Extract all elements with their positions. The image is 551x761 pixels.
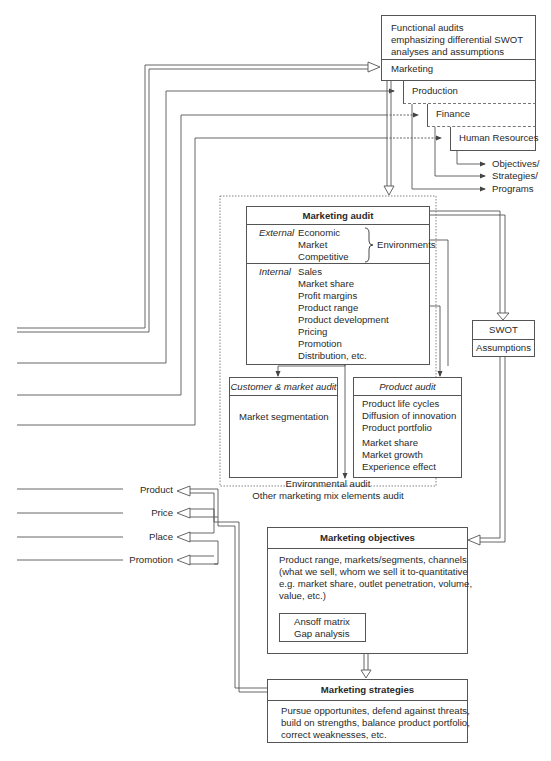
swot-box: SWOT Assumptions: [472, 320, 535, 357]
internal-item: Profit margins: [298, 290, 357, 302]
objectives-body-line: value, etc.): [279, 590, 326, 602]
finance-box: Finance: [427, 103, 536, 127]
swot-title: SWOT: [473, 324, 534, 336]
external-item: Market: [298, 239, 327, 251]
marketing-audit-title: Marketing audit: [247, 207, 429, 225]
mix-promotion: Promotion: [110, 554, 173, 566]
external-item: Competitive: [298, 251, 349, 263]
product-audit-item: Product portfolio: [362, 422, 432, 434]
product-audit-item: Diffusion of innovation: [362, 410, 456, 422]
finance-label: Finance: [436, 108, 470, 120]
human-resources-box: Human Resources: [450, 126, 536, 151]
functional-audits-box: Functional audits emphasizing differenti…: [381, 15, 536, 81]
external-label: External: [259, 227, 294, 239]
environmental-audit-label: Environmental audit: [220, 478, 436, 490]
internal-item: Pricing: [298, 326, 327, 338]
objectives-body-line: (what we sell, whom we sell it to-quanti…: [279, 566, 468, 578]
product-audit-item: Market growth: [362, 449, 423, 461]
product-audit-title: Product audit: [354, 378, 461, 396]
marketing-objectives-title: Marketing objectives: [268, 528, 467, 549]
product-audit-item: Product life cycles: [362, 398, 439, 410]
internal-item: Market share: [298, 278, 354, 290]
output-programs: Programs: [492, 183, 534, 195]
product-audit-box: Product audit Product life cycles Diffus…: [353, 377, 462, 478]
internal-item: Promotion: [298, 338, 342, 350]
mix-price: Price: [120, 507, 173, 519]
production-box: Production: [403, 80, 536, 104]
internal-item: Sales: [298, 266, 322, 278]
internal-item: Product range: [298, 302, 358, 314]
functional-audits-title-3: analyses and assumptions: [391, 46, 504, 58]
tools-box: Ansoff matrix Gap analysis: [279, 613, 366, 642]
objectives-body-line: e.g. market share, outlet penetration, v…: [279, 578, 472, 590]
functional-audits-title-1: Functional audits: [391, 22, 464, 34]
strategies-body-line: build on strengths, balance product port…: [281, 717, 470, 729]
customer-market-audit-title: Customer & market audit: [230, 378, 337, 396]
output-strategies: Strategies/: [492, 170, 538, 182]
production-label: Production: [412, 85, 458, 97]
strategies-body-line: correct weaknesses, etc.: [281, 729, 387, 741]
human-resources-label: Human Resources: [459, 132, 538, 144]
marketing-label: Marketing: [391, 63, 433, 75]
internal-label: Internal: [259, 266, 291, 278]
internal-item: Product development: [298, 314, 389, 326]
other-mix-audit-label: Other marketing mix elements audit: [220, 490, 436, 502]
mix-product: Product: [120, 484, 173, 496]
customer-market-audit-box: Customer & market audit Market segmentat…: [229, 377, 338, 478]
marketing-audit-box: Marketing audit External Economic Market…: [246, 206, 430, 365]
product-audit-item: Market share: [362, 437, 418, 449]
strategies-body-line: Pursue opportunites, defend against thre…: [281, 705, 470, 717]
mix-place: Place: [120, 531, 173, 543]
functional-audits-title-2: emphasizing differential SWOT: [391, 34, 523, 46]
marketing-objectives-box: Marketing objectives Product range, mark…: [267, 527, 468, 654]
swot-assumptions: Assumptions: [473, 342, 534, 354]
ansoff-matrix: Ansoff matrix: [294, 616, 350, 628]
market-segmentation: Market segmentation: [239, 411, 329, 423]
environments-label: Environments: [377, 239, 436, 251]
brace-icon: [364, 227, 374, 263]
marketing-strategies-box: Marketing strategies Pursue opportunites…: [267, 679, 468, 743]
product-audit-item: Experience effect: [362, 461, 436, 473]
gap-analysis: Gap analysis: [294, 628, 349, 640]
objectives-body-line: Product range, markets/segments, channel…: [279, 554, 467, 566]
external-item: Economic: [298, 227, 340, 239]
internal-item: Distribution, etc.: [298, 350, 367, 362]
marketing-strategies-title: Marketing strategies: [268, 680, 467, 701]
output-objectives: Objectives/: [492, 158, 539, 170]
